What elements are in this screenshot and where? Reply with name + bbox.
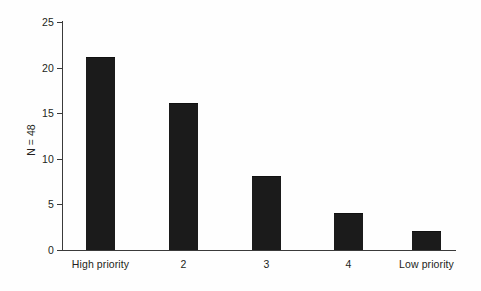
y-tick-label: 0 (14, 245, 54, 256)
y-tick-mark (57, 250, 63, 251)
x-axis-line (62, 250, 456, 251)
bar (412, 231, 441, 250)
bar (252, 176, 281, 250)
y-axis-title-text: N = 48 (26, 80, 37, 200)
x-tick-label: Low priority (357, 258, 481, 270)
bar (169, 103, 198, 250)
bar (86, 57, 115, 250)
bar (334, 213, 363, 250)
bars-container (63, 22, 455, 250)
y-tick-label: 20 (14, 63, 54, 74)
y-tick-label: 5 (14, 199, 54, 210)
bar-chart-figure: 0510152025 N = 48 High priority234Low pr… (0, 0, 481, 291)
y-tick-label: 25 (14, 17, 54, 28)
